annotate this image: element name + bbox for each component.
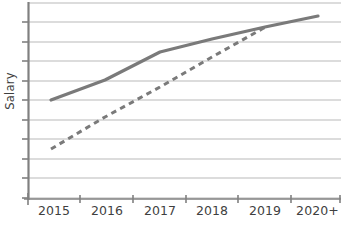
y-axis [22, 2, 29, 200]
chart-plot-area [0, 0, 345, 231]
x-tick-label-2015: 2015 [28, 203, 80, 218]
x-tick-label-2019: 2019 [239, 203, 291, 218]
salary-line-chart: Salary 2015 2016 2017 2018 2019 2020+ [0, 0, 345, 231]
y-axis-title: Salary [3, 63, 17, 119]
x-tick-label-2017: 2017 [134, 203, 186, 218]
horizontal-gridlines [28, 3, 341, 198]
x-tick-label-2018: 2018 [186, 203, 238, 218]
x-tick-label-2020plus: 2020+ [290, 203, 345, 218]
x-tick-label-2016: 2016 [81, 203, 133, 218]
series-solid-line [51, 16, 318, 100]
